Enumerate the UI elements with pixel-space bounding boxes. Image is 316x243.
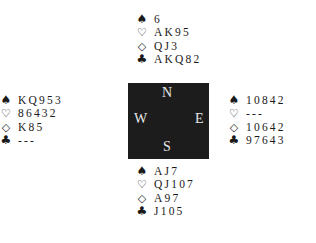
- compass-box: N W E S: [128, 83, 209, 159]
- club-icon: ♣: [226, 134, 242, 147]
- east-spades-cards: 10842: [242, 94, 286, 107]
- north-hearts-cards: AK95: [150, 26, 191, 39]
- north-hand: ♠ 6 ♡ AK95 ◇ QJ3 ♣ AKQ82: [134, 13, 201, 67]
- club-icon: ♣: [0, 134, 14, 147]
- east-diamonds-row: ◇ 10642: [226, 121, 286, 134]
- south-spades-row: ♠ AJ7: [134, 165, 195, 178]
- club-icon: ♣: [134, 53, 150, 66]
- south-hand: ♠ AJ7 ♡ QJ107 ◇ A97 ♣ J105: [134, 165, 195, 219]
- compass-south-label: S: [163, 140, 171, 154]
- spade-icon: ♠: [134, 165, 150, 178]
- diamond-icon: ◇: [134, 192, 150, 205]
- south-diamonds-row: ◇ A97: [134, 192, 195, 205]
- north-clubs-row: ♣ AKQ82: [134, 53, 201, 66]
- east-hearts-cards: ---: [242, 107, 264, 120]
- north-spades-cards: 6: [150, 13, 162, 26]
- heart-icon: ♡: [0, 107, 14, 120]
- diamond-icon: ◇: [134, 40, 150, 53]
- south-hearts-cards: QJ107: [150, 178, 195, 191]
- west-clubs-cards: ---: [14, 134, 36, 147]
- diamond-icon: ◇: [226, 121, 242, 134]
- north-clubs-cards: AKQ82: [150, 53, 201, 66]
- compass-west-label: W: [134, 112, 147, 126]
- south-diamonds-cards: A97: [150, 192, 180, 205]
- east-clubs-cards: 97643: [242, 134, 286, 147]
- club-icon: ♣: [134, 205, 150, 218]
- heart-icon: ♡: [134, 26, 150, 39]
- north-spades-row: ♠ 6: [134, 13, 201, 26]
- east-hearts-row: ♡ ---: [226, 107, 286, 120]
- west-clubs-row: ♣ ---: [0, 134, 63, 147]
- heart-icon: ♡: [134, 178, 150, 191]
- east-hand: ♠ 10842 ♡ --- ◇ 10642 ♣ 97643: [226, 94, 286, 148]
- west-diamonds-row: ◇ K85: [0, 121, 63, 134]
- spade-icon: ♠: [226, 94, 242, 107]
- heart-icon: ♡: [226, 107, 242, 120]
- east-spades-row: ♠ 10842: [226, 94, 286, 107]
- north-diamonds-cards: QJ3: [150, 40, 179, 53]
- east-diamonds-cards: 10642: [242, 121, 286, 134]
- north-diamonds-row: ◇ QJ3: [134, 40, 201, 53]
- south-clubs-row: ♣ J105: [134, 205, 195, 218]
- south-hearts-row: ♡ QJ107: [134, 178, 195, 191]
- spade-icon: ♠: [134, 13, 150, 26]
- compass-east-label: E: [195, 112, 204, 126]
- west-hearts-row: ♡ 86432: [0, 107, 63, 120]
- diamond-icon: ◇: [0, 121, 14, 134]
- compass-north-label: N: [162, 86, 172, 100]
- east-clubs-row: ♣ 97643: [226, 134, 286, 147]
- west-hearts-cards: 86432: [14, 107, 58, 120]
- west-spades-cards: KQ953: [14, 94, 63, 107]
- north-hearts-row: ♡ AK95: [134, 26, 201, 39]
- south-spades-cards: AJ7: [150, 165, 179, 178]
- south-clubs-cards: J105: [150, 205, 185, 218]
- west-diamonds-cards: K85: [14, 121, 44, 134]
- spade-icon: ♠: [0, 94, 14, 107]
- west-spades-row: ♠ KQ953: [0, 94, 63, 107]
- west-hand: ♠ KQ953 ♡ 86432 ◇ K85 ♣ ---: [0, 94, 63, 148]
